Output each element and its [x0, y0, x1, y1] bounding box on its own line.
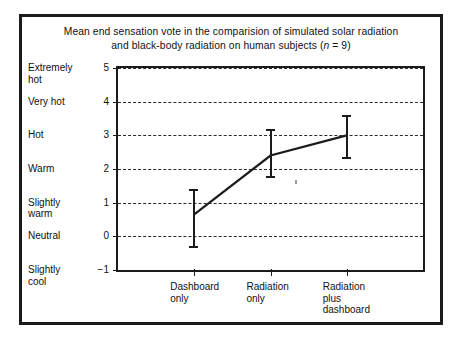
gridline-y-5: [118, 68, 423, 69]
error-bar-cap-lower-0: [189, 246, 198, 248]
y-axis-label-number-3: 3: [95, 129, 109, 141]
y-axis-tick-5: [113, 68, 119, 69]
figure-panel: Mean end sensation vote in the comparisi…: [19, 14, 443, 325]
chart-title-line-2-b: = 9): [329, 40, 350, 51]
y-axis-tick--1: [113, 270, 119, 271]
x-axis-tick-2: [347, 269, 348, 276]
x-axis-tick-1: [271, 269, 272, 276]
y-axis-label-number-5: 5: [95, 62, 109, 74]
chart-title-line-1: Mean end sensation vote in the comparisi…: [22, 25, 440, 39]
x-axis-tick-0: [194, 269, 195, 276]
error-bar-cap-upper-2: [342, 115, 351, 117]
y-axis-label-word-1: Slightlywarm: [28, 197, 92, 220]
y-axis-tick-2: [113, 169, 119, 170]
y-axis-tick-1: [113, 203, 119, 204]
plot-area: Extremelyhot5Very hot4Hot3Warm2Slightlyw…: [116, 66, 425, 272]
chart-title-line-2-a: and black-body radiation on human subjec…: [111, 40, 323, 51]
y-axis-label-word--1: Slightlycool: [28, 264, 92, 287]
error-bar-1: [270, 129, 272, 176]
y-axis-label-word-3: Hot: [28, 129, 92, 141]
y-axis-label-word-4: Very hot: [28, 96, 92, 108]
y-axis-tick-0: [113, 236, 119, 237]
error-bar-0: [193, 189, 195, 246]
gridline-y-0: [118, 236, 423, 237]
error-bar-2: [346, 115, 348, 157]
chart-title: Mean end sensation vote in the comparisi…: [22, 25, 440, 52]
print-artifact-speck: [295, 180, 297, 184]
y-axis-tick-4: [113, 102, 119, 103]
error-bar-cap-upper-1: [266, 129, 275, 131]
error-bar-cap-lower-2: [342, 157, 351, 159]
y-axis-label-number-2: 2: [95, 163, 109, 175]
chart-title-line-2: and black-body radiation on human subjec…: [22, 39, 440, 53]
y-axis-label-word-0: Neutral: [28, 230, 92, 242]
y-axis-label-word-5: Extremelyhot: [28, 62, 92, 85]
y-axis-label-number-4: 4: [95, 96, 109, 108]
y-axis-label-word-2: Warm: [28, 163, 92, 175]
y-axis-label-number-1: 1: [95, 197, 109, 209]
y-axis-label-number-0: 0: [95, 230, 109, 242]
error-bar-cap-upper-0: [189, 189, 198, 191]
y-axis-label-number--1: −1: [95, 264, 109, 276]
x-axis-label-2: Radiationplusdashboard: [323, 281, 413, 316]
y-axis-tick-3: [113, 135, 119, 136]
gridline-y-4: [118, 102, 423, 103]
gridline-y-1: [118, 203, 423, 204]
error-bar-cap-lower-1: [266, 176, 275, 178]
